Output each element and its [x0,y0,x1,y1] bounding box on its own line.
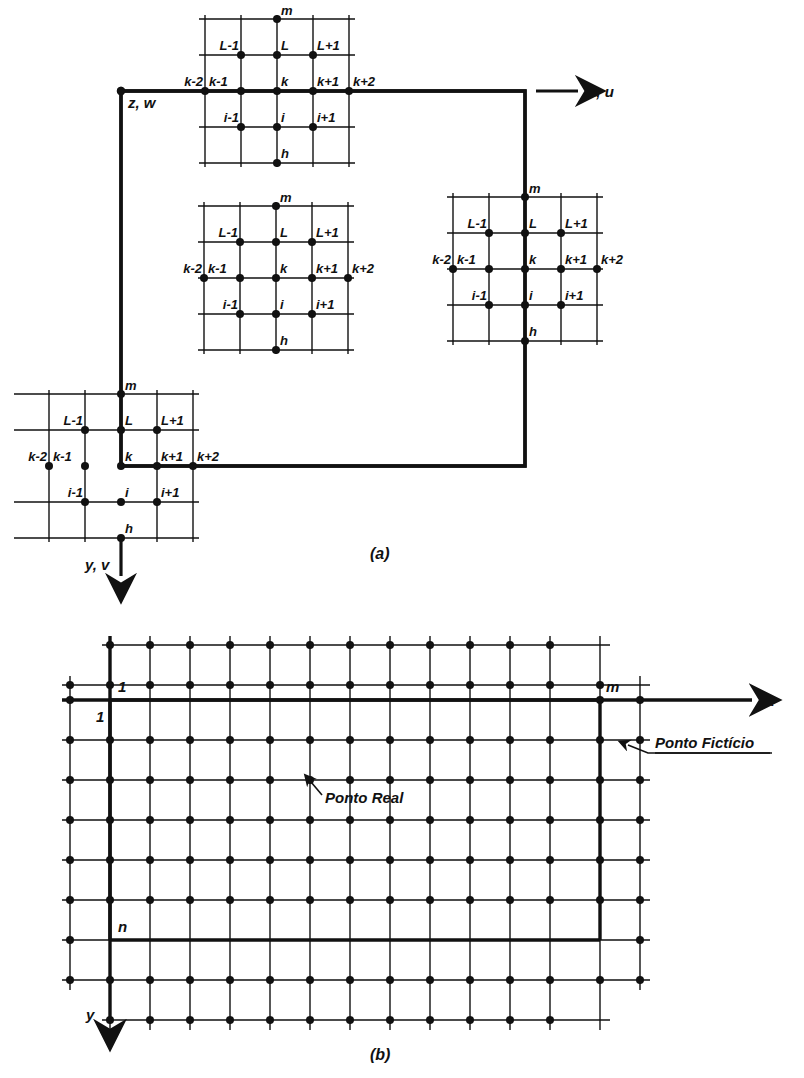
stencil-label-k-plus-2: k+2 [353,74,376,89]
stencil-label-i-plus-1: i+1 [161,485,179,500]
stencil-label-k: k [529,252,537,267]
stencil-label-L-plus-1: L+1 [565,216,588,231]
label-first-row: 1 [96,708,104,725]
stencil-label-k-minus-2: k-2 [28,449,48,464]
stencil-label-L-plus-1: L+1 [316,225,339,240]
panel-b-y-axis-label: y [85,1006,95,1023]
label-last-row: n [118,918,127,935]
stencil-label-k-minus-1: k-1 [53,449,72,464]
label-first-column: 1 [118,678,126,695]
panel-b-caption: (b) [370,1046,390,1063]
stencil-corner-boundary: m L-1 L L+1 k-2 k-1 k k+1 k+2 i-1 i i+1 … [14,378,220,542]
stencil-label-m: m [125,378,137,393]
stencil-label-k-plus-1: k+1 [317,74,339,89]
label-last-column: m [606,678,619,695]
stencil-label-L: L [281,38,289,53]
stencil-label-k-plus-2: k+2 [197,449,220,464]
stencil-label-h: h [125,521,133,536]
stencil-label-k: k [281,74,289,89]
stencil-label-L-minus-1: L-1 [64,413,84,428]
stencil-label-m: m [280,190,292,205]
stencil-label-L-minus-1: L-1 [219,225,239,240]
stencil-label-i: i [280,297,284,312]
panel-a-caption: (a) [370,545,390,562]
figure-container: z, w x, u y, v [0,0,804,1078]
stencil-label-k-plus-1: k+1 [565,252,587,267]
grid-vertical-lines [70,636,640,1030]
stencil-label-h: h [280,333,288,348]
stencil-label-L-plus-1: L+1 [161,413,184,428]
stencil-label-L: L [125,413,133,428]
ponto-real-label: Ponto Real [325,789,404,806]
stencil-label-L-minus-1: L-1 [468,216,488,231]
callout-ponto-ficticio: Ponto Fictício [628,734,772,753]
stencil-interior: m L-1 L L+1 k-2 k-1 k k+1 k+2 i-1 i i+1 … [183,190,375,354]
stencil-label-i: i [529,288,533,303]
panel-b-x-axis-label: x [765,692,775,709]
stencil-label-k-minus-2: k-2 [183,261,203,276]
stencil-label-m: m [281,3,293,18]
stencil-label-i: i [281,110,285,125]
stencil-label-h: h [529,324,537,339]
stencil-label-i-minus-1: i-1 [472,288,487,303]
stencil-label-k-minus-1: k-1 [457,252,476,267]
x-axis-label: x, u [587,83,614,100]
panel-a: z, w x, u y, v [14,3,624,576]
origin-label: z, w [127,94,157,111]
stencil-label-L: L [529,216,537,231]
stencil-label-k-plus-1: k+1 [161,449,183,464]
stencil-label-k-plus-2: k+2 [352,261,375,276]
stencil-label-k-plus-2: k+2 [601,252,624,267]
stencil-label-k: k [125,449,133,464]
stencil-label-h: h [281,146,289,161]
stencil-label-i-minus-1: i-1 [224,110,239,125]
stencil-label-i-minus-1: i-1 [223,297,238,312]
stencil-label-L-minus-1: L-1 [220,38,240,53]
panel-b: x y 1 1 m n Ponto Real Ponto Fictício (b… [62,636,775,1063]
ponto-ficticio-label: Ponto Fictício [655,734,754,751]
y-axis-label: y, v [84,556,111,573]
stencil-label-i-plus-1: i+1 [317,110,335,125]
stencil-label-k-minus-2: k-2 [432,252,452,267]
stencil-label-L-plus-1: L+1 [317,38,340,53]
stencil-label-i-plus-1: i+1 [565,288,583,303]
stencil-label-i: i [125,485,129,500]
stencil-label-k-minus-1: k-1 [209,74,228,89]
stencil-label-k-minus-2: k-2 [184,74,204,89]
stencil-label-k-plus-1: k+1 [316,261,338,276]
stencil-label-k-minus-1: k-1 [208,261,227,276]
stencil-label-i-plus-1: i+1 [316,297,334,312]
stencil-label-k: k [280,261,288,276]
stencil-top-boundary: m L-1 L L+1 k-2 k-1 k k+1 k+2 i-1 i i+1 … [184,3,376,167]
origin-node-overlay [117,87,125,95]
stencil-label-i-minus-1: i-1 [68,485,83,500]
stencil-label-L: L [280,225,288,240]
stencil-right-boundary: m L-1 L L+1 k-2 k-1 k k+1 k+2 i-1 i i+1 … [432,181,624,345]
stencil-label-m: m [529,181,541,196]
